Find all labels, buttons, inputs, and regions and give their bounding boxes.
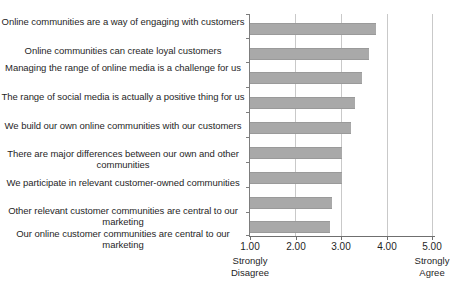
x-tick-label: 3.00: [321, 241, 361, 253]
category-label: Online communities can create loyal cust…: [0, 45, 246, 56]
category-label: The range of social media is actually a …: [0, 91, 246, 102]
bar: [250, 172, 342, 184]
gridline-5: [432, 14, 433, 236]
category-label: Our online customer communities are cent…: [0, 228, 246, 250]
y-tick: [246, 162, 249, 163]
y-tick: [246, 62, 249, 63]
bar: [250, 97, 355, 109]
scale-anchor-low-line2: Disagree: [215, 267, 285, 279]
category-label: Managing the range of online media is a …: [0, 62, 246, 73]
category-label: We participate in relevant customer-owne…: [0, 177, 246, 188]
x-tick: [387, 236, 388, 240]
y-tick: [246, 137, 249, 138]
category-label: There are major differences between our …: [0, 148, 246, 170]
scale-anchor-low: Strongly Disagree: [215, 255, 285, 278]
category-label-column: Online communities are a way of engaging…: [0, 14, 248, 236]
bar: [250, 221, 330, 233]
bar: [250, 147, 342, 159]
category-label: Online communities are a way of engaging…: [0, 16, 246, 27]
bar: [250, 72, 362, 84]
plot-area: [249, 14, 434, 236]
x-tick-label: 4.00: [367, 241, 407, 253]
gridline-4: [387, 14, 388, 236]
scale-anchor-low-line1: Strongly: [215, 255, 285, 267]
y-tick: [246, 38, 249, 39]
y-tick: [246, 87, 249, 88]
x-tick-label: 2.00: [276, 241, 316, 253]
category-label: Other relevant customer communities are …: [0, 205, 246, 227]
x-tick: [341, 236, 342, 240]
x-tick-label: 1.00: [230, 241, 270, 253]
y-tick: [246, 112, 249, 113]
x-axis-line: [249, 236, 435, 237]
category-label: We build our own online communities with…: [0, 120, 246, 131]
x-tick-label: 5.00: [412, 241, 452, 253]
scale-anchor-high-line1: Strongly: [397, 255, 467, 267]
scale-anchor-high: Strongly Agree: [397, 255, 467, 278]
bar: [250, 48, 369, 60]
y-tick: [246, 14, 249, 15]
bar: [250, 122, 351, 134]
y-tick: [246, 212, 249, 213]
x-tick: [296, 236, 297, 240]
horizontal-bar-chart: Online communities are a way of engaging…: [0, 0, 470, 299]
y-tick: [246, 187, 249, 188]
bar: [250, 197, 332, 209]
x-tick: [250, 236, 251, 240]
bar: [250, 23, 376, 35]
scale-anchor-high-line2: Agree: [397, 267, 467, 279]
x-tick: [432, 236, 433, 240]
